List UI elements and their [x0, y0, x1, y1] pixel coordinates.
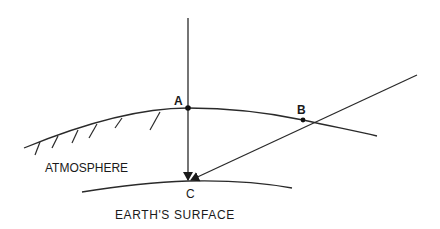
diagram-canvas: A B C ATMOSPHERE EARTH'S SURFACE — [0, 0, 440, 229]
point-b-marker — [301, 118, 306, 123]
point-c-label: C — [186, 187, 195, 201]
point-a-marker — [185, 105, 191, 111]
earth-surface-label: EARTH'S SURFACE — [115, 208, 235, 222]
atmosphere-boundary-curve — [24, 108, 377, 148]
atmosphere-hatch-marks — [35, 112, 160, 155]
point-b-label: B — [297, 103, 306, 117]
oblique-ray — [191, 75, 417, 180]
point-a-label: A — [174, 94, 183, 108]
atmosphere-label: ATMOSPHERE — [45, 161, 128, 175]
